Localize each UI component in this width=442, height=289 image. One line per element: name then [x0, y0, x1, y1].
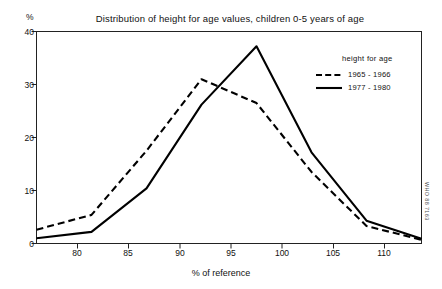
y-tick-40: 40: [12, 27, 34, 37]
legend-title: height for age: [342, 54, 434, 63]
x-tick-90: 90: [175, 248, 184, 258]
x-tick-80: 80: [72, 248, 81, 258]
x-tick-100: 100: [275, 248, 289, 258]
legend-entry-1965-1966: 1965 - 1966: [316, 68, 434, 81]
chart-figure: Distribution of height for age values, c…: [0, 0, 442, 289]
solid-line-swatch-icon: [316, 84, 342, 92]
x-tick-110: 110: [377, 248, 391, 258]
x-axis-title: % of reference: [0, 268, 442, 278]
y-tick-10: 10: [12, 186, 34, 196]
x-tick-95: 95: [226, 248, 235, 258]
y-tick-20: 20: [12, 133, 34, 143]
y-tick-0: 0: [12, 239, 34, 249]
who-source-code: WHO 88 7163: [424, 182, 430, 221]
legend-label-1977-1980: 1977 - 1980: [348, 83, 391, 92]
plot-area: [0, 0, 442, 289]
dashed-line-swatch-icon: [316, 71, 342, 79]
x-tick-85: 85: [123, 248, 132, 258]
y-tick-30: 30: [12, 80, 34, 90]
chart-legend: height for age 1965 - 1966 1977 - 1980: [316, 54, 434, 94]
legend-entry-1977-1980: 1977 - 1980: [316, 81, 434, 94]
x-tick-105: 105: [326, 248, 340, 258]
legend-label-1965-1966: 1965 - 1966: [348, 70, 391, 79]
y-axis-tick-labels: 40 30 20 10 0: [10, 0, 34, 289]
